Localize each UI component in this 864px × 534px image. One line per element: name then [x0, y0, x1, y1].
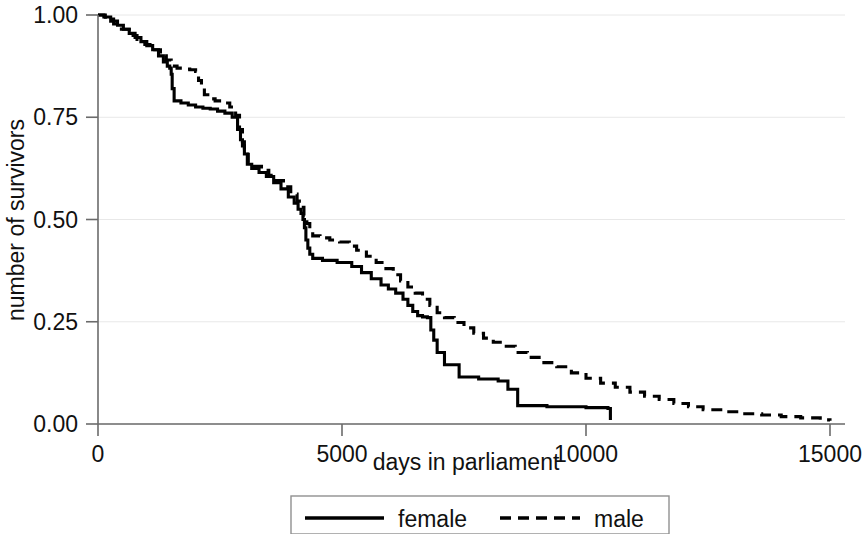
chart-canvas: 0.000.250.500.751.00 050001000015000 day… — [0, 0, 864, 534]
x-tick-group — [98, 424, 830, 436]
series-group — [98, 15, 830, 421]
y-tick-label: 0.00 — [33, 411, 78, 437]
x-tick-label: 15000 — [798, 441, 862, 467]
series-line-male — [98, 15, 830, 421]
series-line-female — [98, 15, 610, 420]
y-tick-label: 1.00 — [33, 2, 78, 28]
x-tick-label: 0 — [92, 441, 105, 467]
gridlines-group — [98, 15, 845, 424]
y-tick-label-group: 0.000.250.500.751.00 — [33, 2, 78, 437]
legend-label-female: female — [398, 506, 467, 532]
y-tick-label: 0.50 — [33, 207, 78, 233]
x-tick-label: 10000 — [554, 441, 618, 467]
legend: female male — [291, 496, 669, 534]
y-tick-label: 0.75 — [33, 104, 78, 130]
survival-plot: 0.000.250.500.751.00 050001000015000 day… — [0, 0, 864, 534]
y-tick-label: 0.25 — [33, 309, 78, 335]
y-tick-group — [86, 15, 98, 424]
y-axis-title: number of survivors — [3, 119, 29, 321]
legend-label-male: male — [594, 506, 644, 532]
x-tick-label: 5000 — [316, 441, 367, 467]
x-axis-title: days in parliament — [373, 449, 560, 475]
